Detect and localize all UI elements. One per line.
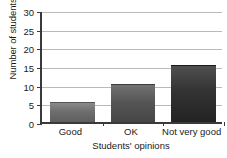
y-axis-label: 10: [23, 81, 34, 92]
x-axis-label: OK: [101, 126, 162, 137]
y-axis-title: Number of students: [7, 0, 21, 89]
y-axis-tick: [37, 31, 42, 32]
y-axis-tick: [37, 68, 42, 69]
y-axis-label: 20: [23, 44, 34, 55]
y-axis-tick: [37, 49, 42, 50]
y-axis-label: 0: [29, 119, 34, 130]
y-axis-tick: [37, 12, 42, 13]
y-axis-tick: [37, 124, 42, 125]
y-axis-tick: [37, 105, 42, 106]
bar-chart: Number of students 051015202530 Students…: [0, 0, 227, 158]
bar: [171, 65, 216, 122]
x-axis-label: Good: [40, 126, 101, 137]
y-axis-label: 5: [29, 100, 34, 111]
y-axis-label: 25: [23, 25, 34, 36]
x-axis-label: Not very good: [161, 126, 222, 137]
bar: [111, 84, 156, 122]
bars-layer: [42, 12, 222, 122]
plot-area: 051015202530: [40, 12, 222, 124]
y-axis-tick: [37, 87, 42, 88]
y-axis-label: 15: [23, 63, 34, 74]
x-axis-tick: [224, 122, 225, 126]
x-axis-title: Students' opinions: [40, 140, 222, 151]
y-axis-label: 30: [23, 7, 34, 18]
bar: [50, 102, 95, 122]
